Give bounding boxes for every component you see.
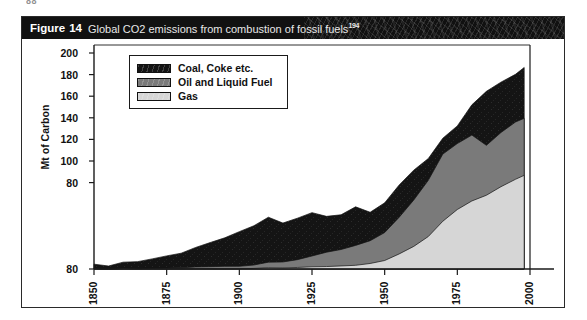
- legend-item: Coal, Coke etc.: [137, 61, 273, 75]
- legend-swatch: [137, 92, 171, 101]
- figure-container: Figure 14 Global CO2 emissions from comb…: [21, 16, 565, 308]
- page-number-artifact: 88: [26, 0, 37, 6]
- legend-item: Oil and Liquid Fuel: [137, 75, 273, 89]
- legend-label: Gas: [178, 90, 198, 102]
- x-axis-tick-label: 1950: [378, 282, 390, 305]
- chart-area: Mt of Carbon 2001801601401201008080 1850…: [22, 39, 564, 307]
- x-axis-tick-label: 1925: [305, 282, 317, 305]
- chart-plot: [22, 39, 566, 309]
- caption-title: Global CO2 emissions from combustion of …: [88, 22, 348, 34]
- figure-caption-bar: Figure 14 Global CO2 emissions from comb…: [22, 17, 564, 39]
- caption-footnote-superscript: 194: [348, 22, 359, 29]
- chart-legend: Coal, Coke etc.Oil and Liquid FuelGas: [129, 55, 288, 109]
- x-axis-tick-label: 1975: [450, 282, 462, 305]
- figure-caption-text: Global CO2 emissions from combustion of …: [88, 22, 359, 35]
- legend-label: Coal, Coke etc.: [178, 62, 253, 74]
- legend-swatch: [137, 64, 171, 73]
- figure-label: Figure: [30, 22, 65, 34]
- x-axis-tick-label: 1850: [87, 282, 99, 305]
- x-axis-tick-label: 2000: [523, 282, 535, 305]
- legend-label: Oil and Liquid Fuel: [178, 76, 273, 88]
- legend-item: Gas: [137, 89, 273, 103]
- x-axis-tick-label: 1875: [160, 282, 172, 305]
- legend-swatch: [137, 78, 171, 87]
- figure-number: 14: [69, 22, 82, 34]
- x-axis-tick-label: 1900: [232, 282, 244, 305]
